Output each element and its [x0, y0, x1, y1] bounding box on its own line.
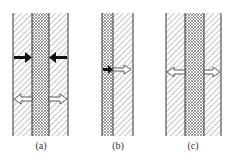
panel-label-b: (b) [103, 140, 133, 151]
panel-label-c: (c) [178, 140, 208, 151]
panel-b [102, 13, 133, 136]
hatched-wall-right [49, 13, 68, 136]
panel-label-a: (a) [26, 140, 56, 151]
crosshatched-core [102, 13, 113, 136]
crosshatched-core [32, 13, 49, 136]
hatched-wall-right [204, 13, 221, 136]
panel-a [13, 13, 68, 136]
panel-c [166, 13, 221, 136]
hatched-wall [113, 13, 133, 136]
hatched-wall-left [13, 13, 32, 136]
hatched-wall-left [166, 13, 185, 136]
crosshatched-core [185, 13, 204, 136]
